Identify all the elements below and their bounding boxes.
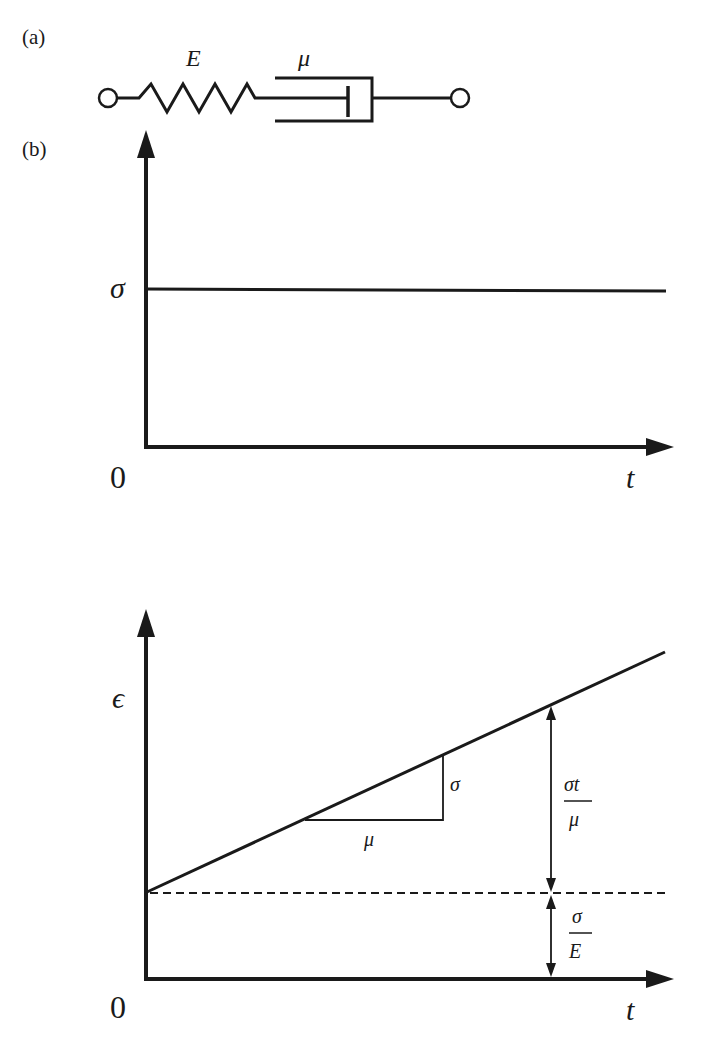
- viscous-denominator: μ: [568, 808, 579, 831]
- spring-label-E: E: [185, 45, 201, 71]
- strain-origin-label: 0: [110, 989, 126, 1025]
- x-axis-arrowhead-icon: [646, 970, 674, 988]
- dimension-arrowhead-icon: [546, 963, 556, 977]
- left-terminal-icon: [99, 89, 117, 107]
- dimension-arrowhead-icon: [546, 706, 556, 720]
- slope-run-label-mu: μ: [363, 828, 374, 851]
- panel-a: (a) E μ: [22, 25, 469, 121]
- slope-rise-label-sigma: σ: [450, 773, 461, 795]
- y-axis-arrowhead-icon: [137, 130, 155, 158]
- strain-time-plot: μ σ σt μ σ E ϵ 0 t: [110, 609, 674, 1026]
- spring-icon: [117, 84, 275, 112]
- elastic-numerator: σ: [572, 905, 583, 927]
- dimension-arrowhead-icon: [546, 895, 556, 909]
- maxwell-model-figure: (a) E μ (b) σ 0 t: [0, 0, 705, 1057]
- dashpot-icon: [275, 78, 451, 121]
- panel-a-label: (a): [22, 25, 45, 49]
- dashpot-label-mu: μ: [297, 45, 310, 71]
- stress-origin-label: 0: [110, 459, 126, 495]
- y-axis-arrowhead-icon: [137, 609, 155, 637]
- stress-x-label-t: t: [626, 461, 635, 494]
- strain-y-label-epsilon: ϵ: [112, 681, 126, 714]
- x-axis-arrowhead-icon: [646, 438, 674, 456]
- panel-b-label: (b): [22, 137, 47, 161]
- viscous-numerator: σt: [564, 773, 580, 795]
- elastic-denominator: E: [568, 940, 581, 962]
- strain-x-label-t: t: [626, 993, 635, 1026]
- dimension-arrowhead-icon: [546, 878, 556, 892]
- right-terminal-icon: [451, 89, 469, 107]
- stress-y-label-sigma: σ: [110, 271, 126, 304]
- strain-response-line: [147, 652, 665, 892]
- stress-time-plot: σ 0 t: [110, 130, 674, 495]
- constant-stress-line: [146, 289, 666, 291]
